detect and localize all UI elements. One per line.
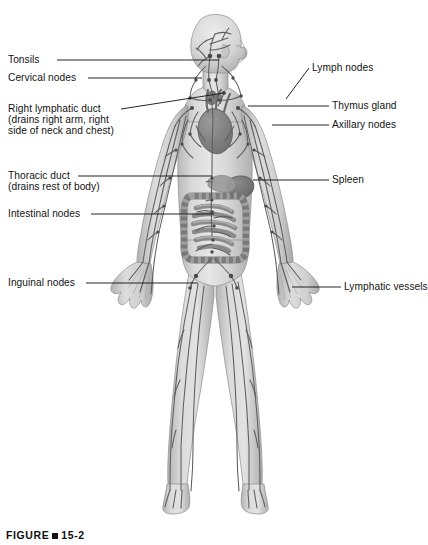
label-right-lymphatic-duct-line2: (drains right arm, right — [8, 114, 109, 126]
label-right-lymphatic-duct: Right lymphatic duct — [8, 103, 101, 115]
left-leg — [216, 268, 262, 496]
figure-caption: FIGURE15-2 — [6, 529, 85, 541]
label-spleen: Spleen — [332, 174, 364, 186]
left-foot — [241, 484, 268, 514]
caption-number: 15-2 — [61, 529, 84, 541]
label-intestinal-nodes: Intestinal nodes — [8, 208, 80, 220]
caption-prefix: FIGURE — [6, 529, 49, 541]
label-right-lymphatic-duct-line3: side of neck and chest) — [8, 125, 114, 137]
label-thymus-gland: Thymus gland — [332, 100, 397, 112]
label-axillary-nodes: Axillary nodes — [332, 119, 396, 131]
label-lymphatic-vessels: Lymphatic vessels — [344, 281, 428, 293]
label-thoracic-duct-line2: (drains rest of body) — [8, 181, 100, 193]
label-cervical-nodes: Cervical nodes — [8, 72, 76, 84]
label-lymph-nodes: Lymph nodes — [312, 62, 373, 74]
right-leg — [168, 268, 214, 496]
label-inguinal-nodes: Inguinal nodes — [8, 277, 75, 289]
caption-square-icon — [52, 533, 58, 539]
label-tonsils: Tonsils — [8, 54, 40, 66]
leader-lymph-nodes — [286, 68, 309, 99]
label-thoracic-duct: Thoracic duct — [8, 170, 70, 182]
